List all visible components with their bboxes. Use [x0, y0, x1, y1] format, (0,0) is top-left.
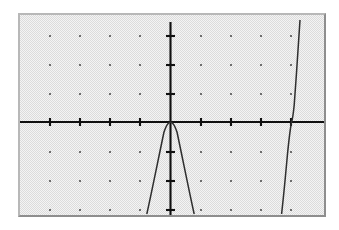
plot-area	[20, 15, 324, 215]
curve-steep	[282, 20, 300, 214]
screenshot-root	[0, 0, 339, 230]
graph-window	[18, 13, 326, 217]
